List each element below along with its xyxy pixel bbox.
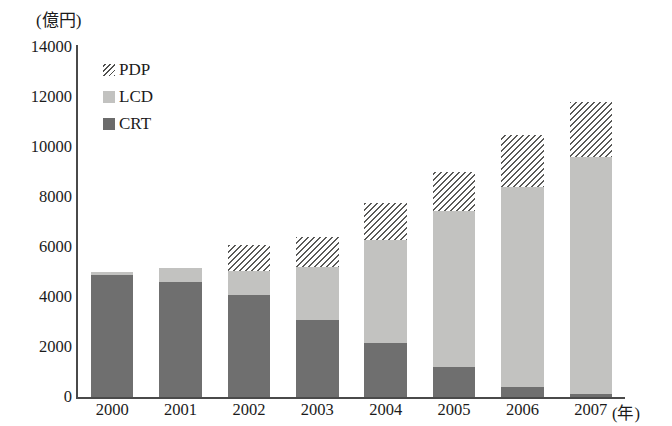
- stacked-bar-2001[interactable]: [159, 268, 201, 397]
- stacked-bar-2007[interactable]: [570, 102, 612, 398]
- bar-segment-pdp-2002: [228, 245, 270, 271]
- y-axis-tick-8000: 8000: [2, 189, 72, 206]
- x-axis-tick-2001: 2001: [146, 402, 214, 419]
- bar-segment-lcd-2006: [501, 187, 543, 387]
- legend-label-crt: CRT: [119, 115, 151, 132]
- x-axis-tick-2006: 2006: [488, 402, 556, 419]
- bar-group-2001: [146, 47, 214, 397]
- bar-group-2003: [283, 47, 351, 397]
- legend-item-pdp[interactable]: PDP: [103, 56, 153, 83]
- bar-group-2002: [215, 47, 283, 397]
- bar-segment-lcd-2004: [364, 240, 406, 344]
- legend-item-lcd[interactable]: LCD: [103, 83, 153, 110]
- x-axis-tick-2007: 2007: [557, 402, 625, 419]
- bar-segment-pdp-2004: [364, 203, 406, 239]
- stacked-bar-2002[interactable]: [228, 245, 270, 398]
- legend-item-crt[interactable]: CRT: [103, 110, 153, 137]
- bar-group-2005: [420, 47, 488, 397]
- bar-segment-lcd-2001: [159, 268, 201, 282]
- bar-segment-pdp-2005: [433, 172, 475, 211]
- bar-group-2006: [488, 47, 556, 397]
- y-axis-tick-labels: 02000400060008000100001200014000: [0, 0, 72, 426]
- stacked-bar-2000[interactable]: [91, 272, 133, 397]
- bar-segment-lcd-2002: [228, 271, 270, 295]
- bar-segment-pdp-2007: [570, 102, 612, 157]
- y-axis-tick-4000: 4000: [2, 289, 72, 306]
- legend-swatch-pdp-icon: [103, 64, 115, 76]
- x-axis-tick-2004: 2004: [352, 402, 420, 419]
- bar-segment-crt-2001: [159, 282, 201, 397]
- x-axis-tick-2000: 2000: [78, 402, 146, 419]
- bar-segment-pdp-2003: [296, 237, 338, 267]
- x-axis-tick-2002: 2002: [215, 402, 283, 419]
- y-axis-tick-0: 0: [2, 389, 72, 406]
- bar-segment-lcd-2005: [433, 211, 475, 367]
- x-axis-tick-2005: 2005: [420, 402, 488, 419]
- legend-swatch-lcd-icon: [103, 91, 115, 103]
- legend-swatch-crt-icon: [103, 118, 115, 130]
- bar-group-2004: [352, 47, 420, 397]
- bar-segment-pdp-2006: [501, 135, 543, 188]
- x-axis-tick-2003: 2003: [283, 402, 351, 419]
- chart-legend: PDP LCD CRT: [103, 56, 153, 137]
- legend-label-lcd: LCD: [119, 88, 153, 105]
- bar-segment-crt-2004: [364, 343, 406, 397]
- stacked-bar-2006[interactable]: [501, 135, 543, 398]
- y-axis-tick-10000: 10000: [2, 139, 72, 156]
- y-axis-tick-12000: 12000: [2, 89, 72, 106]
- stacked-bar-2004[interactable]: [364, 203, 406, 397]
- y-axis-tick-14000: 14000: [2, 39, 72, 56]
- bar-segment-crt-2000: [91, 275, 133, 398]
- legend-label-pdp: PDP: [119, 61, 150, 78]
- bar-segment-crt-2007: [570, 394, 612, 397]
- bar-segment-crt-2005: [433, 367, 475, 397]
- y-axis-tick-6000: 6000: [2, 239, 72, 256]
- bar-segment-lcd-2003: [296, 267, 338, 320]
- x-axis-line: [76, 397, 625, 399]
- stacked-bar-2005[interactable]: [433, 172, 475, 397]
- bar-segment-crt-2003: [296, 320, 338, 398]
- plot-area: [78, 47, 625, 397]
- bar-segment-crt-2006: [501, 387, 543, 397]
- bar-group-2007: [557, 47, 625, 397]
- y-axis-tick-2000: 2000: [2, 339, 72, 356]
- stacked-bar-chart: (億円) 02000400060008000100001200014000 (年…: [0, 0, 672, 426]
- stacked-bar-2003[interactable]: [296, 237, 338, 397]
- bar-segment-crt-2002: [228, 295, 270, 398]
- bar-segment-lcd-2007: [570, 157, 612, 395]
